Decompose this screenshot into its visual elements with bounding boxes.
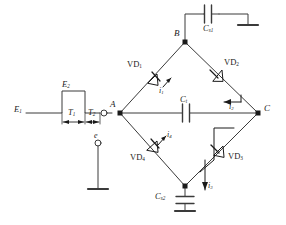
vd1-label: VD1 bbox=[127, 60, 142, 69]
current-arrow-i1 bbox=[163, 78, 171, 87]
current-arrow-i4 bbox=[158, 136, 166, 145]
cs2-label: Cs2 bbox=[155, 192, 165, 201]
arm-b-c bbox=[185, 42, 258, 113]
circuit-diagram: A B C VD1 VD2 VD3 VD4 Ct Cs1 Cs2 i1 i2 i… bbox=[0, 0, 286, 225]
cs1-right-wire bbox=[219, 14, 248, 24]
arm-c-d bbox=[185, 113, 258, 186]
current-label-i4: i4 bbox=[167, 131, 172, 140]
vd2-text: VD bbox=[224, 57, 236, 67]
node-dot-c bbox=[256, 111, 261, 116]
cs1-sub: s1 bbox=[209, 27, 214, 33]
e2-sub: 2 bbox=[67, 83, 70, 89]
t1-sub: 1 bbox=[73, 111, 76, 117]
vd3-text: VD bbox=[228, 151, 240, 161]
current-label-i1: i1 bbox=[159, 87, 164, 96]
node-label-c: C bbox=[264, 104, 270, 113]
vd3-symbol bbox=[211, 145, 224, 157]
vd4-sub: 4 bbox=[142, 156, 145, 162]
vd1-text: VD bbox=[127, 59, 139, 69]
e2-label: E2 bbox=[62, 80, 70, 89]
schematic-canvas bbox=[0, 0, 286, 225]
cs2-branch bbox=[175, 186, 195, 211]
ct-sub: t bbox=[186, 98, 187, 104]
vd2-symbol bbox=[210, 70, 223, 81]
vd3-label: VD3 bbox=[228, 152, 243, 161]
ground-label-e: e bbox=[94, 132, 98, 140]
vd4-label: VD4 bbox=[130, 153, 145, 162]
node-dot-d bbox=[183, 184, 188, 189]
arm-a-b bbox=[120, 42, 185, 113]
vd1-sub: 1 bbox=[139, 63, 142, 69]
i4-sub: 4 bbox=[169, 134, 171, 139]
input-terminal-a bbox=[101, 110, 112, 116]
ground-terminal-e bbox=[88, 140, 108, 189]
cs1-left-wire bbox=[185, 14, 204, 42]
current-label-i2: i2 bbox=[229, 103, 234, 112]
vd1-symbol bbox=[148, 72, 160, 85]
vd2-label: VD2 bbox=[224, 58, 239, 67]
node-dot-a bbox=[118, 111, 123, 116]
e1-sub: 1 bbox=[19, 108, 22, 114]
i1-sub: 1 bbox=[161, 90, 163, 95]
vd2-sub: 2 bbox=[236, 61, 239, 67]
vd4-text: VD bbox=[130, 152, 142, 162]
node-label-a: A bbox=[110, 100, 116, 109]
node-dot-b bbox=[183, 40, 188, 45]
cs1-branch bbox=[185, 5, 258, 42]
node-label-b: B bbox=[174, 29, 180, 38]
current-label-i3: i3 bbox=[208, 182, 213, 191]
e1-label: E1 bbox=[14, 105, 22, 114]
t2-label: T2 bbox=[88, 108, 95, 117]
ct-label: Ct bbox=[180, 95, 187, 104]
t1-label: T1 bbox=[68, 108, 75, 117]
vd3-sub: 3 bbox=[240, 155, 243, 161]
cs1-label: Cs1 bbox=[203, 24, 213, 33]
i2-sub: 2 bbox=[231, 106, 233, 111]
i3-sub: 3 bbox=[210, 185, 212, 190]
cs2-sub: s2 bbox=[161, 195, 166, 201]
arm-d-a bbox=[120, 113, 185, 186]
t2-sub: 2 bbox=[93, 111, 96, 117]
